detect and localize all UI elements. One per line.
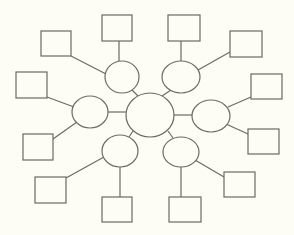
detail-box-rect[interactable] [224, 172, 255, 197]
detail-box-rect[interactable] [248, 129, 279, 154]
detail-box-box-lr-2[interactable] [224, 172, 255, 197]
connector-line [71, 56, 106, 74]
detail-box-rect[interactable] [41, 31, 71, 56]
subtopic-bubble-lower-right[interactable] [163, 137, 199, 167]
connector-line [168, 131, 173, 138]
subtopic-bubble-upper-left-shape[interactable] [105, 61, 139, 93]
detail-box-rect[interactable] [168, 15, 200, 41]
detail-box-box-l-1[interactable] [16, 72, 47, 98]
subtopic-bubble-right[interactable] [192, 100, 230, 132]
connector-line [47, 97, 74, 107]
connector-line [195, 160, 224, 177]
detail-box-box-ur-2[interactable] [230, 31, 262, 57]
detail-box-rect[interactable] [102, 197, 132, 222]
detail-box-rect[interactable] [251, 74, 282, 99]
bubble-map-diagram [0, 0, 294, 235]
central-topic-bubble[interactable] [126, 93, 174, 137]
subtopic-bubble-lower-left[interactable] [102, 135, 138, 167]
detail-box-box-ul-1[interactable] [41, 31, 71, 56]
central-topic-bubble-shape[interactable] [126, 93, 174, 137]
subtopic-bubble-left[interactable] [72, 96, 108, 128]
connector-line [129, 131, 133, 137]
connector-line [198, 52, 230, 70]
detail-box-box-ur-1[interactable] [168, 15, 200, 41]
connector-line [228, 97, 251, 107]
diagram-canvas [0, 0, 294, 235]
detail-box-rect[interactable] [169, 197, 201, 222]
detail-box-box-l-2[interactable] [23, 134, 53, 160]
detail-box-rect[interactable] [16, 72, 47, 98]
detail-box-box-ll-1[interactable] [35, 177, 66, 203]
detail-box-rect[interactable] [102, 15, 132, 41]
subtopic-bubble-upper-right-shape[interactable] [162, 61, 200, 93]
detail-box-box-r-1[interactable] [251, 74, 282, 99]
subtopic-bubble-lower-left-shape[interactable] [102, 135, 138, 167]
detail-box-rect[interactable] [35, 177, 66, 203]
detail-box-box-ul-2[interactable] [102, 15, 132, 41]
topic-bubbles [72, 61, 230, 167]
subtopic-bubble-upper-left[interactable] [105, 61, 139, 93]
connector-line [53, 122, 77, 139]
detail-box-rect[interactable] [23, 134, 53, 160]
subtopic-bubble-right-shape[interactable] [192, 100, 230, 132]
connector-line [162, 90, 171, 96]
connector-line [132, 90, 138, 96]
subtopic-bubble-left-shape[interactable] [72, 96, 108, 128]
detail-box-box-lr-1[interactable] [169, 197, 201, 222]
detail-box-rect[interactable] [230, 31, 262, 57]
subtopic-bubble-upper-right[interactable] [162, 61, 200, 93]
connector-line [66, 157, 104, 178]
detail-box-box-r-2[interactable] [248, 129, 279, 154]
detail-box-box-ll-2[interactable] [102, 197, 132, 222]
connector-line [226, 124, 248, 134]
subtopic-bubble-lower-right-shape[interactable] [163, 137, 199, 167]
